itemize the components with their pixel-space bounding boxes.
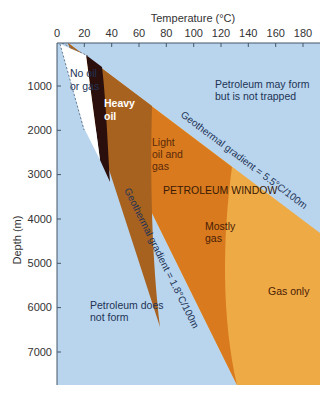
y-axis-title: Depth (m) xyxy=(11,216,23,265)
x-tick-label: 100 xyxy=(185,27,203,39)
label-no-oil-1: No oil xyxy=(70,67,97,79)
label-no-oil-2: or gas xyxy=(70,80,99,92)
x-tick-label: 60 xyxy=(133,27,145,39)
y-tick-label: 1000 xyxy=(28,80,52,92)
label-light-2: oil and xyxy=(152,148,183,160)
label-does-not-form-1: Petroleum does xyxy=(90,299,164,311)
label-mostly-2: gas xyxy=(205,232,222,244)
label-not-trapped-1: Petroleum may form xyxy=(215,78,310,90)
y-tick-label: 7000 xyxy=(28,346,52,358)
x-tick-label: 160 xyxy=(267,27,285,39)
x-tick-label: 20 xyxy=(78,27,90,39)
label-light-1: Light xyxy=(152,136,175,148)
x-tick-labels: 0 20 40 60 80 100 120 140 160 180 xyxy=(54,27,312,39)
y-tick-label: 4000 xyxy=(28,213,52,225)
x-tick-label: 40 xyxy=(106,27,118,39)
x-tick-label: 80 xyxy=(160,27,172,39)
x-tick-label: 120 xyxy=(212,27,230,39)
y-tick-labels: 1000 2000 3000 4000 5000 6000 7000 xyxy=(28,80,52,358)
label-petroleum-window: PETROLEUM WINDOW xyxy=(163,184,277,196)
y-tick-label: 6000 xyxy=(28,301,52,313)
petroleum-window-diagram: Temperature (°C) Depth (m) 0 20 40 60 80… xyxy=(0,0,331,396)
label-light-3: gas xyxy=(152,160,169,172)
y-tick-label: 3000 xyxy=(28,168,52,180)
label-heavy-1: Heavy xyxy=(104,97,135,109)
x-tick-label: 180 xyxy=(294,27,312,39)
y-tick-label: 5000 xyxy=(28,257,52,269)
label-does-not-form-2: not form xyxy=(90,311,129,323)
x-tick-label: 0 xyxy=(54,27,60,39)
label-mostly-1: Mostly xyxy=(205,220,236,232)
label-gas-only: Gas only xyxy=(268,285,310,297)
x-tick-label: 140 xyxy=(239,27,257,39)
y-tick-label: 2000 xyxy=(28,124,52,136)
label-not-trapped-2: but is not trapped xyxy=(215,90,296,102)
label-heavy-2: oil xyxy=(104,110,116,122)
x-axis-title: Temperature (°C) xyxy=(151,12,235,24)
